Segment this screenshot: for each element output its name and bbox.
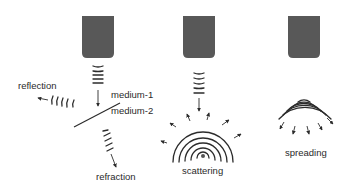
- transducer-icon: [288, 16, 320, 58]
- transducer-icon: [82, 16, 114, 58]
- refracted-arrow: [111, 154, 116, 167]
- label-medium-1: medium-1: [111, 90, 153, 100]
- panel-spreading: [279, 16, 333, 134]
- ultrasound-interactions-diagram: reflection medium-1 medium-2 refraction …: [0, 0, 351, 191]
- reflected-wavefronts: [52, 96, 74, 107]
- incident-wavefronts: [194, 73, 204, 93]
- diagram-canvas: [0, 0, 351, 191]
- label-spreading: spreading: [285, 148, 327, 158]
- label-scattering: scattering: [182, 166, 223, 176]
- transducer-icon: [183, 16, 215, 58]
- spreading-arrows: [280, 118, 333, 134]
- panel-reflection-refraction: [38, 16, 120, 167]
- label-medium-2: medium-2: [111, 106, 153, 116]
- label-refraction: refraction: [96, 172, 136, 182]
- panel-scattering: [161, 16, 241, 162]
- label-reflection: reflection: [18, 81, 57, 91]
- reflected-arrow: [38, 98, 48, 100]
- refracted-wavefronts: [103, 130, 113, 151]
- incident-wavefronts: [93, 66, 103, 83]
- scatterer-dot: [201, 154, 205, 158]
- diverging-wavefronts: [279, 100, 331, 119]
